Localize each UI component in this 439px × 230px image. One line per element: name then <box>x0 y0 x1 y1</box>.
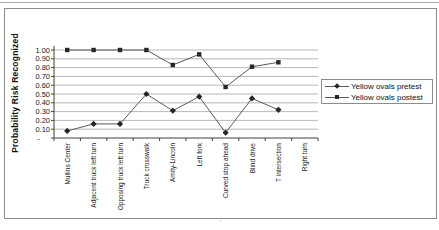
legend-item-postest: Yellow ovals postest <box>322 92 432 102</box>
data-point-marker-square <box>144 48 148 52</box>
data-point-marker-square <box>91 48 95 52</box>
square-marker-icon <box>325 93 349 102</box>
x-category-label: Truck crosswalk <box>143 142 150 189</box>
y-tick-label: 0.60 <box>35 81 50 90</box>
y-axis-title: Probability Risk Recognized <box>10 33 20 153</box>
y-tick-label: - <box>38 134 41 143</box>
legend-label-pretest: Yellow ovals pretest <box>351 82 421 91</box>
x-category-label: Amity-Lincoln <box>169 143 177 182</box>
data-point-marker-diamond <box>64 128 70 134</box>
data-point-marker-square <box>250 65 254 69</box>
y-tick-label: 1.00 <box>35 46 50 55</box>
data-point-marker-square <box>223 85 227 89</box>
legend-item-pretest: Yellow ovals pretest <box>322 81 432 91</box>
data-point-marker-square <box>65 48 69 52</box>
y-tick-label: 0.50 <box>35 90 50 99</box>
x-category-label: Right turn <box>301 143 309 172</box>
x-category-label: Opposing truck left turn <box>117 143 125 211</box>
y-tick-label: 0.70 <box>35 72 50 81</box>
footnote-mark: ' <box>220 219 221 226</box>
chart-page: 1.000.900.800.700.600.500.400.300.200.10… <box>0 0 439 230</box>
x-category-label: Mullins Center <box>64 142 71 184</box>
line-chart-plot: 1.000.900.800.700.600.500.400.300.200.10… <box>0 0 439 230</box>
legend-label-postest: Yellow ovals postest <box>351 93 423 102</box>
y-tick-label: 0.20 <box>35 116 50 125</box>
series-line-square <box>67 50 278 87</box>
x-category-label: Left fork <box>196 142 203 166</box>
x-category-label: T intersection <box>275 143 282 182</box>
data-point-marker-square <box>276 60 280 64</box>
y-tick-label: 0.80 <box>35 63 50 72</box>
x-category-label: Curved stop ahead <box>222 143 230 198</box>
data-point-marker-diamond <box>90 121 96 127</box>
x-category-label: Adjacent truck left turn <box>90 143 98 208</box>
legend: Yellow ovals pretest Yellow ovals postes… <box>321 79 433 104</box>
y-tick-label: 0.40 <box>35 98 50 107</box>
x-category-label: Blind drive <box>249 143 256 174</box>
y-tick-label: 0.30 <box>35 107 50 116</box>
data-point-marker-square <box>197 52 201 56</box>
data-point-marker-diamond <box>275 107 281 113</box>
diamond-marker-icon <box>325 82 349 91</box>
data-point-marker-square <box>171 63 175 67</box>
y-tick-label: 0.90 <box>35 54 50 63</box>
data-point-marker-diamond <box>170 108 176 114</box>
y-tick-label: 0.10 <box>35 125 50 134</box>
data-point-marker-square <box>118 48 122 52</box>
